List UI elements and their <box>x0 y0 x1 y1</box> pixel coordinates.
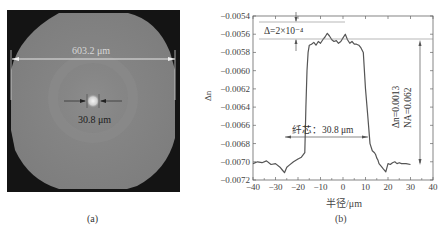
refractive-index-chart: −40−30−20−10010203040−0.0054−0.0056−0.00… <box>0 0 440 237</box>
y-tick-label: −0.0072 <box>220 175 250 185</box>
y-tick-label: −0.0066 <box>220 120 250 130</box>
y-tick-label: −0.0064 <box>220 102 250 112</box>
y-tick-label: −0.0070 <box>220 157 250 167</box>
y-tick-label: −0.0068 <box>220 139 250 149</box>
y-tick-label: −0.0056 <box>220 29 250 39</box>
na-annotation: NA=0.062 <box>403 87 413 128</box>
y-tick-label: −0.0058 <box>220 47 250 57</box>
x-tick-label: 10 <box>361 182 371 192</box>
y-axis-label: Δn <box>203 90 213 101</box>
delta-annotation: Δ=2×10⁻⁴ <box>264 26 304 36</box>
core-width-annotation: 纤芯：30.8 μm <box>292 124 354 135</box>
y-tick-label: −0.0062 <box>220 84 250 94</box>
x-axis-label: 半径/μm <box>326 197 362 209</box>
x-tick-label: 20 <box>384 182 394 192</box>
x-tick-label: −30 <box>268 182 283 192</box>
panel-b-caption: (b) <box>335 213 347 225</box>
y-tick-label: −0.0054 <box>220 11 250 21</box>
delta-n-annotation: Δn=0.0013 <box>391 85 401 128</box>
x-tick-label: 40 <box>429 182 439 192</box>
x-tick-label: 30 <box>406 182 416 192</box>
y-tick-label: −0.0060 <box>220 66 250 76</box>
x-tick-label: 0 <box>341 182 346 192</box>
x-tick-label: −20 <box>291 182 306 192</box>
x-tick-label: −10 <box>313 182 328 192</box>
profile-curve <box>253 33 411 172</box>
